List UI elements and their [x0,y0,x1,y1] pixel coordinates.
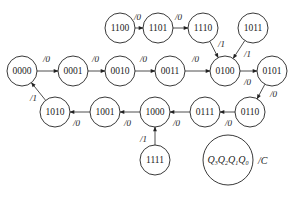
state-label: 0001 [64,66,83,76]
transition-output-label: /0 [172,118,181,128]
transition-output-label: /0 [42,54,51,64]
state-label: 1100 [111,23,130,33]
transition-0100-to-0101: /0 [240,71,257,87]
state-1110: 1110 [188,13,218,43]
transition-output-label: /1 [139,134,147,144]
transition-1110-to-0100: /1 [210,39,225,58]
transition-1000-to-1001: /0 [120,112,140,128]
state-label: 1010 [46,107,65,117]
state-1111: 1111 [140,145,170,175]
transition-0010-to-0011: /0 [135,54,155,71]
state-0000: 0000 [7,56,37,86]
transition-0011-to-0100: /0 [185,54,210,71]
arrow-icon [257,84,265,99]
transition-output-label: /0 [224,118,233,128]
transition-output-label: /1 [29,93,37,103]
transition-output-label: /0 [139,54,148,64]
state-label: 0110 [241,107,260,117]
state-label: 1001 [96,107,115,117]
transition-0001-to-0010: /0 [88,54,105,71]
state-0101: 0101 [257,56,287,86]
transition-output-label: /0 [72,118,81,128]
state-1100: 1100 [105,13,135,43]
state-label: 0101 [263,66,282,76]
transition-1111-to-1000: /1 [139,127,155,145]
legend: Q3Q2Q1Q0 /C [203,135,268,185]
arrow-icon [210,41,218,57]
transition-output-label: /0 [191,54,200,64]
state-0100: 0100 [210,56,240,86]
state-label: 0100 [216,66,235,76]
transition-1001-to-1010: /0 [70,112,90,128]
transition-1011-to-0100: /1 [233,41,251,59]
state-label: 1011 [244,23,263,33]
state-label: 0000 [13,66,32,76]
state-0011: 0011 [155,56,185,86]
legend-state-label: Q3Q2Q1Q0 [208,154,249,166]
state-label: 1000 [146,107,165,117]
state-1011: 1011 [238,13,268,43]
transition-output-label: /1 [217,39,225,49]
state-1010: 1010 [40,97,70,127]
state-1001: 1001 [90,97,120,127]
transition-output-label: /0 [269,89,278,99]
transition-0101-to-0110: /0 [257,84,277,99]
transition-0111-to-1000: /0 [170,112,190,128]
transition-output-label: /0 [123,118,132,128]
state-0001: 0001 [58,56,88,86]
state-diagram: /0/0/1/1/0/0/0/0/0/0/0/0/0/0/1/1 1100110… [0,0,305,198]
state-label: 0010 [111,66,130,76]
transition-0000-to-0001: /0 [37,54,58,71]
state-1101: 1101 [143,13,173,43]
state-0110: 0110 [235,97,265,127]
state-1000: 1000 [140,97,170,127]
transition-output-label: /0 [243,77,252,87]
transition-1010-to-0000: /1 [29,83,46,103]
state-label: 1110 [194,23,213,33]
state-label: 1101 [149,23,168,33]
transition-0110-to-0111: /0 [220,112,235,128]
transition-1101-to-1110: /0 [173,12,188,28]
state-label: 0111 [196,107,215,117]
transition-output-label: /1 [243,49,251,59]
legend-output-label: /C [257,155,268,166]
transition-output-label: /0 [133,12,142,22]
transition-output-label: /0 [174,12,183,22]
state-label: 1111 [146,155,164,165]
state-0111: 0111 [190,97,220,127]
state-0010: 0010 [105,56,135,86]
state-label: 0011 [161,66,180,76]
transition-output-label: /0 [91,54,100,64]
